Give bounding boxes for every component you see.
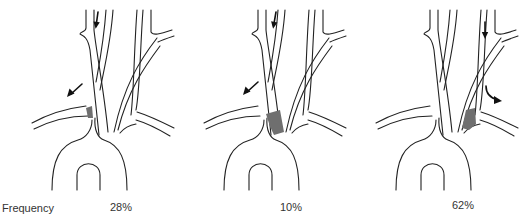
shaded-stenosis-region [462,108,476,130]
arrow-down-left-icon [243,82,258,95]
arrow-down-left-icon [67,84,82,97]
frequency-value-panel-2: 10% [280,201,302,213]
frequency-value-panel-1: 28% [110,201,132,213]
vascular-diagram [0,0,526,220]
panel-2-diagram [204,10,346,190]
panel-3-diagram [376,10,518,190]
panel-1-diagram [32,10,174,190]
arrow-curve-right-icon [486,86,502,104]
frequency-value-panel-3: 62% [452,199,474,211]
frequency-row-label: Frequency [2,202,54,214]
arrow-down-icon [482,22,488,39]
